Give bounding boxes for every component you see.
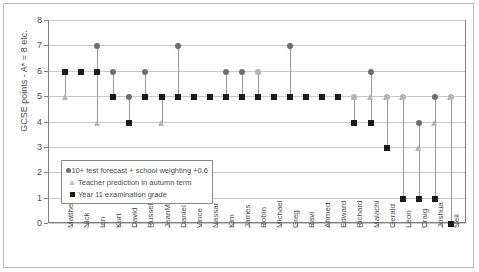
data-point bbox=[126, 94, 132, 100]
data-point bbox=[142, 94, 148, 100]
y-tick-label: 5 bbox=[12, 92, 42, 101]
data-point bbox=[400, 196, 406, 202]
data-point bbox=[368, 120, 374, 126]
data-point bbox=[62, 69, 68, 75]
data-point bbox=[303, 94, 309, 100]
data-point bbox=[175, 43, 181, 49]
gridline bbox=[49, 223, 465, 224]
gridline bbox=[49, 20, 465, 21]
x-tick-label: Greg bbox=[292, 210, 300, 228]
data-point bbox=[415, 145, 421, 151]
data-point bbox=[223, 94, 229, 100]
data-point bbox=[287, 94, 293, 100]
data-point bbox=[159, 94, 165, 100]
x-tick-label: Ravi bbox=[308, 212, 316, 228]
x-tick-label: Ian bbox=[99, 217, 107, 228]
data-point bbox=[239, 94, 245, 100]
x-tick-label: Joshua bbox=[437, 202, 445, 228]
data-point bbox=[367, 94, 373, 100]
y-tick-mark bbox=[44, 122, 48, 123]
x-tick-label: Craig bbox=[421, 209, 429, 228]
data-point bbox=[94, 43, 100, 49]
data-point bbox=[94, 69, 100, 75]
y-tick-label: 6 bbox=[12, 67, 42, 76]
legend-label: Teacher prediction in autumn term bbox=[78, 178, 191, 187]
connector-line bbox=[403, 97, 404, 199]
y-tick-mark bbox=[44, 20, 48, 21]
y-tick-mark bbox=[44, 172, 48, 173]
gridline bbox=[49, 45, 465, 46]
data-point bbox=[207, 94, 213, 100]
x-tick-label: David bbox=[131, 208, 139, 228]
connector-line bbox=[451, 97, 452, 224]
y-tick-mark bbox=[44, 223, 48, 224]
data-point bbox=[62, 94, 68, 100]
data-point bbox=[158, 120, 164, 126]
data-point bbox=[432, 94, 438, 100]
connector-line bbox=[419, 123, 420, 199]
y-tick-mark bbox=[44, 198, 48, 199]
legend-item: Teacher prediction in autumn term bbox=[66, 176, 208, 188]
x-tick-label: Vince bbox=[196, 208, 204, 228]
chart-legend: 10+ test forecast + school weighting +0.… bbox=[61, 160, 213, 204]
connector-line bbox=[178, 46, 179, 97]
x-tick-label: Edward bbox=[340, 201, 348, 228]
x-tick-label: Nick bbox=[83, 212, 91, 228]
data-point bbox=[368, 69, 374, 75]
triangle-icon bbox=[66, 180, 78, 185]
chart-frame: GCSE points - A* = 8 etc. 012345678 Matt… bbox=[3, 3, 474, 268]
data-point bbox=[400, 94, 406, 100]
data-point bbox=[416, 120, 422, 126]
y-tick-mark bbox=[44, 96, 48, 97]
x-tick-label: Neil bbox=[453, 214, 461, 228]
connector-line bbox=[387, 97, 388, 148]
x-tick-label: Kurt bbox=[115, 213, 123, 228]
legend-item: 10+ test forecast + school weighting +0.… bbox=[66, 164, 208, 176]
data-point bbox=[287, 43, 293, 49]
x-tick-label: Nassar bbox=[212, 203, 220, 228]
data-point bbox=[191, 94, 197, 100]
x-tick-label: Malachi bbox=[373, 200, 381, 228]
data-point bbox=[126, 120, 132, 126]
connector-line bbox=[97, 46, 98, 122]
data-point bbox=[110, 69, 116, 75]
legend-label: Year 11 examination grade bbox=[78, 190, 167, 199]
y-tick-label: 4 bbox=[12, 118, 42, 127]
data-point bbox=[255, 94, 261, 100]
data-point bbox=[223, 69, 229, 75]
y-tick-label: 2 bbox=[12, 168, 42, 177]
data-point bbox=[239, 69, 245, 75]
x-tick-label: Richard bbox=[356, 200, 364, 228]
x-tick-label: James bbox=[244, 204, 252, 228]
data-point bbox=[255, 69, 261, 75]
data-point bbox=[416, 196, 422, 202]
y-tick-mark bbox=[44, 71, 48, 72]
y-tick-mark bbox=[44, 147, 48, 148]
y-tick-label: 8 bbox=[12, 16, 42, 25]
data-point bbox=[448, 94, 454, 100]
y-tick-mark bbox=[44, 45, 48, 46]
x-tick-label: Michael bbox=[276, 200, 284, 228]
x-tick-label: Gerald bbox=[389, 204, 397, 228]
connector-line bbox=[290, 46, 291, 97]
data-point bbox=[142, 69, 148, 75]
x-tick-label: Russell bbox=[147, 202, 155, 228]
legend-label: 10+ test forecast + school weighting +0.… bbox=[71, 166, 208, 175]
data-point bbox=[335, 94, 341, 100]
connector-line bbox=[435, 97, 436, 199]
y-tick-label: 0 bbox=[12, 219, 42, 228]
data-point bbox=[384, 145, 390, 151]
x-tick-label: Daniel bbox=[180, 205, 188, 228]
data-point bbox=[175, 94, 181, 100]
y-tick-label: 1 bbox=[12, 194, 42, 203]
x-tick-label: Ahmed bbox=[324, 203, 332, 228]
data-point bbox=[271, 94, 277, 100]
square-icon bbox=[66, 192, 78, 197]
data-point bbox=[384, 94, 390, 100]
data-point bbox=[110, 94, 116, 100]
x-tick-label: Kim bbox=[228, 214, 236, 228]
data-point bbox=[319, 94, 325, 100]
y-tick-label: 3 bbox=[12, 143, 42, 152]
legend-item: Year 11 examination grade bbox=[66, 188, 208, 200]
data-point bbox=[432, 196, 438, 202]
